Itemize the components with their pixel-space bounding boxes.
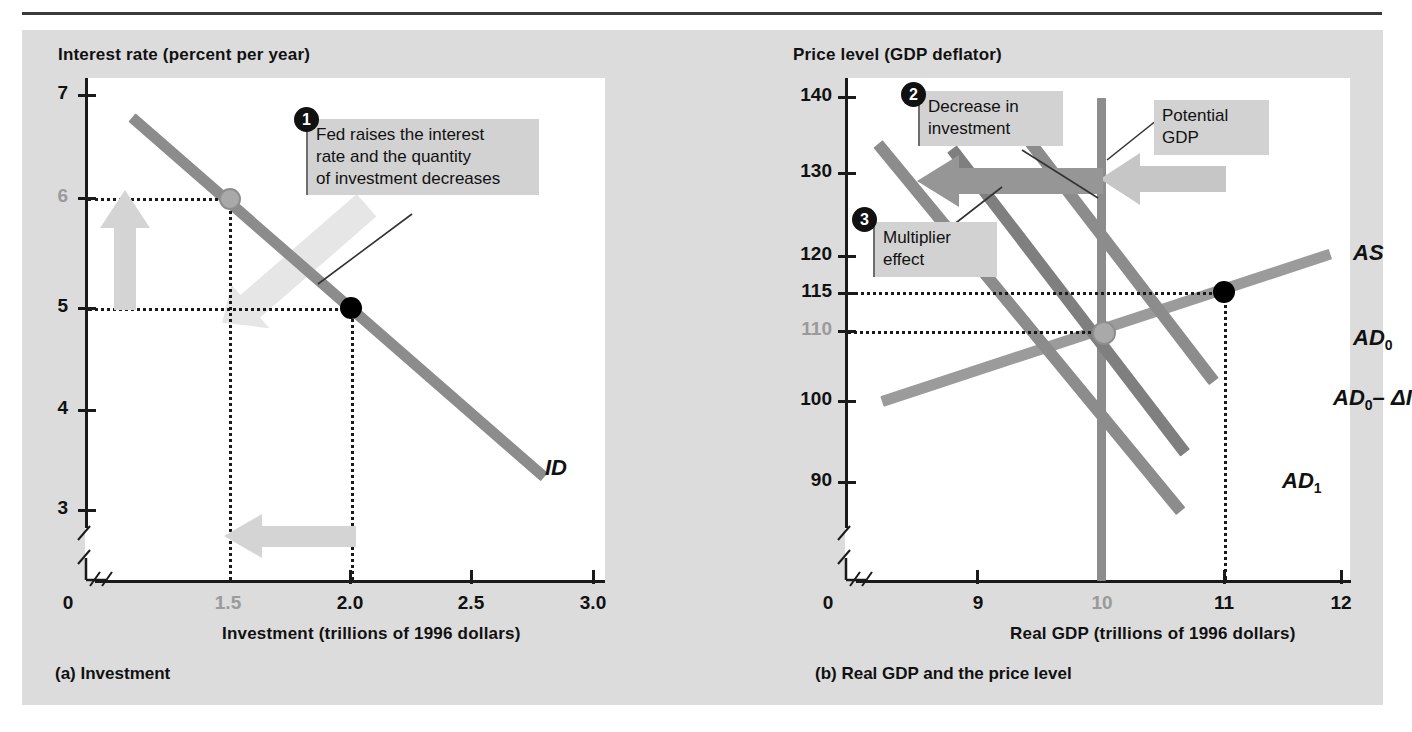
panel-a-point-new bbox=[219, 188, 241, 210]
potential-gdp-line1: Potential bbox=[1162, 105, 1260, 127]
panel-a-xtick-3.0 bbox=[592, 570, 595, 584]
panel-b-caption: (b) Real GDP and the price level bbox=[815, 664, 1072, 684]
panel-b-y-axis bbox=[845, 78, 848, 528]
interest-rate-up-arrow bbox=[100, 188, 160, 313]
label-ad0di-tail: – ΔI bbox=[1373, 385, 1412, 410]
panel-a-ylabel-4: 4 bbox=[30, 397, 68, 419]
panel-b-ylabel-130: 130 bbox=[780, 160, 832, 182]
panel-b-xlabel-10: 10 bbox=[1082, 592, 1122, 614]
callout-1-line1: Fed raises the interest bbox=[316, 124, 530, 146]
callout-2-line2: investment bbox=[928, 118, 1054, 140]
label-ad0-sub: 0 bbox=[1385, 337, 1393, 353]
panel-b-ytick-100 bbox=[838, 400, 856, 403]
panel-b-xlabel-9: 9 bbox=[958, 592, 998, 614]
panel-a-xlabel-1.5: 1.5 bbox=[205, 592, 251, 614]
panel-a-ylabel-3: 3 bbox=[30, 497, 68, 519]
panel-a-ylabel-7: 7 bbox=[30, 82, 68, 104]
callout-3-line2: effect bbox=[883, 249, 988, 271]
panel-b-ylabel-110: 110 bbox=[780, 318, 832, 340]
panel-b-ylabel-90: 90 bbox=[780, 469, 832, 491]
potential-gdp-callout-box: Potential GDP bbox=[1154, 100, 1269, 155]
panel-a-ylabel-5: 5 bbox=[30, 295, 68, 317]
panel-a-xlabel-2.0: 2.0 bbox=[327, 592, 373, 614]
panel-b-ytick-120 bbox=[838, 255, 856, 258]
panel-b-axis-break bbox=[832, 520, 882, 586]
callout-1-line3: of investment decreases bbox=[316, 168, 530, 190]
callout-2-number-badge: 2 bbox=[901, 82, 926, 107]
panel-b-ylabel-115: 115 bbox=[780, 280, 832, 302]
panel-b-guide-v-11 bbox=[1224, 292, 1227, 580]
panel-a-ylabel-6: 6 bbox=[30, 185, 68, 207]
potential-gdp-line2: GDP bbox=[1162, 127, 1260, 149]
panel-b-ytick-130 bbox=[838, 172, 856, 175]
label-ad0di-text: AD bbox=[1333, 385, 1365, 410]
panel-a-xlabel-2.5: 2.5 bbox=[448, 592, 494, 614]
panel-b-point-new-equilibrium bbox=[1092, 321, 1116, 345]
panel-b-ylabel-120: 120 bbox=[780, 243, 832, 265]
callout-2-line1: Decrease in bbox=[928, 96, 1054, 118]
panel-a-ytick-3 bbox=[78, 509, 96, 512]
panel-a-xtick-2.5 bbox=[470, 570, 473, 584]
callout-2-box: Decrease in investment bbox=[918, 91, 1063, 146]
panel-b-xlabel-12: 12 bbox=[1321, 592, 1361, 614]
label-ad1-sub: 1 bbox=[1314, 480, 1322, 496]
panel-a-xlabel-3.0: 3.0 bbox=[570, 592, 616, 614]
panel-a-y-axis bbox=[85, 78, 88, 528]
panel-a-x-axis-title: Investment (trillions of 1996 dollars) bbox=[222, 624, 521, 644]
callout-3-line1: Multiplier bbox=[883, 227, 988, 249]
label-ad0-curve: AD0 bbox=[1353, 325, 1393, 353]
panel-a-caption: (a) Investment bbox=[55, 664, 170, 684]
callout-1-number-badge: 1 bbox=[294, 107, 319, 132]
label-id-curve: ID bbox=[545, 455, 567, 481]
label-ad1-curve: AD1 bbox=[1282, 468, 1322, 496]
panel-b-guide-h-110 bbox=[848, 331, 1103, 334]
panel-a-xlabel-0: 0 bbox=[48, 592, 88, 614]
label-ad1-text: AD bbox=[1282, 468, 1314, 493]
label-ad0di-sub: 0 bbox=[1365, 397, 1373, 413]
panel-a-axis-break bbox=[72, 520, 122, 586]
panel-b-ylabel-140: 140 bbox=[780, 84, 832, 106]
label-ad0-text: AD bbox=[1353, 325, 1385, 350]
callout-3-number-badge: 3 bbox=[852, 207, 877, 232]
panel-a-point-initial bbox=[340, 297, 362, 319]
investment-decrease-arrow bbox=[222, 512, 357, 560]
callout-3-box: Multiplier effect bbox=[873, 222, 997, 277]
panel-a-ytick-7 bbox=[78, 94, 96, 97]
panel-b-ylabel-100: 100 bbox=[780, 388, 832, 410]
panel-b-y-axis-title: Price level (GDP deflator) bbox=[793, 45, 1002, 65]
panel-b-xlabel-11: 11 bbox=[1204, 592, 1244, 614]
label-ad0-minus-di-curve: AD0– ΔI bbox=[1333, 385, 1412, 413]
callout-1-leader-line bbox=[300, 210, 420, 288]
panel-b-xtick-9 bbox=[976, 570, 979, 584]
callout-1-line2: rate and the quantity bbox=[316, 146, 530, 168]
panel-b-x-axis-title: Real GDP (trillions of 1996 dollars) bbox=[1010, 624, 1296, 644]
panel-b-ytick-140 bbox=[838, 96, 856, 99]
panel-a-ytick-4 bbox=[78, 409, 96, 412]
panel-b-point-initial-equilibrium bbox=[1213, 281, 1235, 303]
panel-b-guide-h-115 bbox=[848, 292, 1226, 295]
callout-1-box: Fed raises the interest rate and the qua… bbox=[306, 119, 539, 195]
panel-b-xtick-12 bbox=[1340, 570, 1343, 584]
panel-b-ytick-90 bbox=[838, 481, 856, 484]
panel-a-y-axis-title: Interest rate (percent per year) bbox=[58, 45, 310, 65]
top-rule bbox=[22, 12, 1382, 15]
label-as-curve: AS bbox=[1353, 240, 1384, 266]
panel-b-xlabel-0: 0 bbox=[808, 592, 848, 614]
